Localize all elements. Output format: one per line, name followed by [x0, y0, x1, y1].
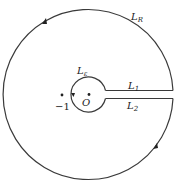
keyhole-contour-diagram: LR Lε L1 L2 O −1 [0, 0, 181, 186]
label-L2: L2 [126, 100, 139, 113]
minus-one-point [61, 94, 64, 97]
arrow-icon-outer-top [42, 18, 47, 24]
label-origin: O [82, 97, 90, 108]
label-minus-one: −1 [55, 101, 70, 112]
origin-point [88, 93, 91, 96]
label-Leps: Lε [76, 65, 88, 78]
